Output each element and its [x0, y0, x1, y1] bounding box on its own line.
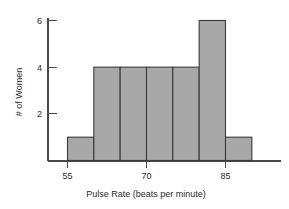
- histogram-bar: [226, 137, 252, 160]
- y-tick-label-6: 6: [37, 16, 42, 26]
- histogram-bar: [147, 67, 173, 160]
- x-tick-label-85: 85: [220, 171, 230, 181]
- histogram-bar: [199, 21, 225, 161]
- histogram-bar: [94, 67, 120, 160]
- histogram-bar: [120, 67, 146, 160]
- y-axis-title: # of Women: [14, 68, 24, 116]
- y-tick-label-4: 4: [37, 63, 42, 73]
- chart-canvas: 6 4 2 55 70 85 Pulse Rate (beats per min…: [0, 0, 289, 209]
- x-tick-label-55: 55: [62, 171, 72, 181]
- y-tick-label-2: 2: [37, 109, 42, 119]
- histogram-bar: [68, 137, 94, 160]
- histogram-chart: 6 4 2 55 70 85 Pulse Rate (beats per min…: [0, 0, 289, 209]
- histogram-bar: [173, 67, 199, 160]
- x-axis-title: Pulse Rate (beats per minute): [86, 189, 206, 199]
- x-tick-label-70: 70: [141, 171, 151, 181]
